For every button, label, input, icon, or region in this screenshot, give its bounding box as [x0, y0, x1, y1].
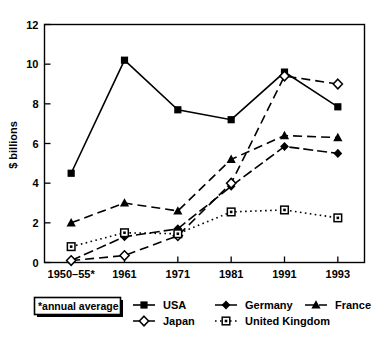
data-point-marker	[121, 229, 129, 237]
data-point-marker	[174, 230, 182, 238]
legend-label: United Kingdom	[245, 315, 330, 327]
legend-item-japan[interactable]: Japan	[133, 315, 195, 327]
legend-item-united-kingdom[interactable]: United Kingdom	[215, 315, 330, 327]
data-point-marker	[333, 149, 342, 158]
series-japan	[67, 71, 343, 265]
x-tick-label: 1991	[272, 268, 296, 280]
data-point-marker	[174, 106, 181, 113]
legend-label: Japan	[163, 315, 195, 327]
chart-container: $ billions 024681012 1950–55*19611971198…	[0, 0, 385, 338]
legend-label: Germany	[245, 299, 294, 311]
series-line	[71, 76, 338, 260]
series-line	[71, 210, 338, 247]
series-line	[71, 146, 338, 260]
series-germany	[67, 142, 342, 265]
data-point-marker	[227, 208, 235, 216]
x-axis-ticks: 1950–55*19611971198119911993	[48, 257, 350, 280]
series-line	[71, 60, 338, 173]
legend-item-usa[interactable]: USA	[133, 299, 186, 311]
y-tick-label: 6	[32, 138, 38, 150]
data-point-marker	[228, 116, 235, 123]
x-tick-label: 1993	[326, 268, 350, 280]
y-tick-label: 0	[32, 257, 38, 269]
data-point-marker	[67, 256, 76, 266]
y-tick-label: 2	[32, 217, 38, 229]
data-point-marker	[140, 301, 147, 308]
x-tick-label: 1971	[166, 268, 190, 280]
data-point-marker	[67, 243, 75, 251]
chart-legend: USAGermanyFranceJapanUnited Kingdom	[133, 299, 371, 327]
y-tick-label: 8	[32, 98, 38, 110]
data-point-marker	[121, 57, 128, 64]
legend-item-france[interactable]: France	[305, 299, 371, 311]
series-united-kingdom	[67, 206, 341, 250]
series-usa	[68, 57, 342, 177]
data-point-marker	[333, 79, 342, 89]
data-point-marker	[333, 133, 342, 141]
x-tick-label: 1981	[219, 268, 243, 280]
y-axis-title: $ billions	[7, 121, 19, 169]
annual-average-note: *annual average	[38, 300, 119, 312]
y-tick-label: 10	[26, 58, 38, 70]
x-tick-label: 1950–55*	[48, 268, 96, 280]
data-point-marker	[222, 317, 230, 325]
data-point-marker	[334, 214, 342, 222]
data-point-marker	[120, 251, 129, 261]
legend-item-germany[interactable]: Germany	[215, 299, 294, 311]
data-point-marker	[281, 206, 289, 214]
x-tick-label: 1961	[112, 268, 136, 280]
data-point-marker	[334, 103, 341, 110]
y-axis-ticks: 024681012	[26, 19, 50, 269]
y-tick-label: 4	[32, 177, 39, 189]
chart-title	[0, 0, 385, 2]
y-tick-label: 12	[26, 19, 38, 31]
legend-label: France	[335, 299, 371, 311]
series-layer	[67, 57, 343, 266]
data-point-marker	[139, 316, 148, 326]
data-point-marker	[222, 300, 231, 309]
legend-label: USA	[163, 299, 186, 311]
data-point-marker	[120, 198, 129, 206]
plot-frame	[45, 25, 365, 263]
annotation-box: *annual average	[35, 298, 124, 318]
data-point-marker	[68, 170, 75, 177]
line-chart-plot: $ billions 024681012 1950–55*19611971198…	[0, 0, 385, 338]
